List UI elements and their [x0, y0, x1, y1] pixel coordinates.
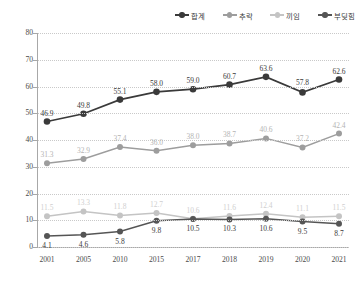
data-label: 10.3: [210, 224, 250, 233]
gridline: [38, 220, 349, 221]
line-marker-icon: [270, 11, 284, 19]
data-point: [117, 96, 124, 103]
line-marker-icon: [175, 11, 189, 19]
data-point: [299, 89, 306, 96]
line-marker-icon: [223, 11, 237, 19]
data-label: 11.5: [27, 203, 67, 212]
data-point: [336, 76, 343, 83]
plot-area: 8070605040302010020012005201020152017201…: [37, 33, 349, 248]
data-point: [336, 221, 342, 227]
y-axis-tick: [33, 60, 37, 61]
chart-legend: 합계추락끼임부딪힘: [175, 7, 355, 23]
y-axis-label: 10: [7, 215, 33, 224]
data-label: 37.2: [283, 134, 323, 143]
data-point: [154, 210, 160, 216]
data-point: [81, 208, 87, 214]
data-label: 10.6: [173, 206, 213, 215]
y-axis-label: 60: [7, 82, 33, 91]
y-axis-label: 80: [7, 28, 33, 37]
data-label: 4.1: [27, 241, 67, 250]
y-axis-label: 30: [7, 162, 33, 171]
y-axis-tick: [33, 33, 37, 34]
data-label: 11.8: [100, 202, 140, 211]
data-label: 11.6: [210, 203, 250, 212]
data-label: 10.5: [173, 224, 213, 233]
gridline: [38, 113, 349, 114]
data-label: 9.5: [283, 227, 323, 236]
y-axis-tick: [33, 194, 37, 195]
y-axis-label: 70: [7, 55, 33, 64]
y-axis-label: 40: [7, 135, 33, 144]
y-axis-tick: [33, 220, 37, 221]
data-label: 46.9: [27, 109, 67, 118]
x-axis-label: 2017: [173, 255, 213, 264]
gridline: [38, 194, 349, 195]
data-label: 58.0: [137, 79, 177, 88]
data-label: 38.0: [173, 132, 213, 141]
x-axis-label: 2001: [27, 255, 67, 264]
data-label: 57.8: [283, 78, 323, 87]
gridline: [38, 33, 349, 34]
y-axis-tick: [33, 140, 37, 141]
data-label: 5.8: [100, 237, 140, 246]
x-axis-label: 2018: [210, 255, 250, 264]
data-point: [81, 232, 87, 238]
legend-item-label: 부딪힘: [334, 10, 355, 21]
data-label: 60.7: [210, 72, 250, 81]
data-point: [336, 131, 342, 137]
data-point: [300, 144, 306, 150]
x-axis-label: 2010: [100, 255, 140, 264]
data-label: 11.5: [319, 203, 359, 212]
legend-item-2[interactable]: 끼임: [270, 10, 300, 21]
data-label: 9.8: [137, 226, 177, 235]
data-point: [44, 213, 50, 219]
data-label: 49.8: [64, 101, 104, 110]
data-point: [44, 160, 50, 166]
y-axis-tick: [33, 87, 37, 88]
data-label: 31.3: [27, 150, 67, 159]
data-label: 4.6: [64, 240, 104, 249]
data-point: [81, 156, 87, 162]
data-label: 13.3: [64, 198, 104, 207]
x-axis-label: 2015: [137, 255, 177, 264]
line-marker-icon: [318, 11, 332, 19]
data-point: [44, 233, 50, 239]
gridline: [38, 167, 349, 168]
y-axis-tick: [33, 167, 37, 168]
data-point: [190, 142, 196, 148]
data-point: [263, 74, 270, 81]
legend-item-label: 합계: [191, 10, 205, 21]
data-label: 55.1: [100, 87, 140, 96]
data-label: 62.6: [319, 67, 359, 76]
legend-item-0[interactable]: 합계: [175, 10, 205, 21]
data-point: [153, 89, 160, 96]
data-label: 42.4: [319, 121, 359, 130]
legend-item-1[interactable]: 추락: [223, 10, 253, 21]
x-axis-label: 2021: [319, 255, 359, 264]
data-label: 12.4: [246, 201, 286, 210]
data-point: [117, 212, 123, 218]
data-label: 32.9: [64, 146, 104, 155]
data-point: [227, 140, 233, 146]
data-label: 12.7: [137, 200, 177, 209]
data-label: 63.6: [246, 64, 286, 73]
data-point: [336, 213, 342, 219]
data-label: 8.7: [319, 229, 359, 238]
line-chart: 합계추락끼임부딪힘 807060504030201002001200520102…: [0, 0, 360, 289]
data-point: [117, 228, 123, 234]
legend-item-label: 추락: [239, 10, 253, 21]
gridline: [38, 60, 349, 61]
data-point: [44, 118, 51, 125]
data-label: 40.6: [246, 125, 286, 134]
x-axis-label: 2005: [64, 255, 104, 264]
data-label: 59.0: [173, 76, 213, 85]
y-axis-label: 20: [7, 189, 33, 198]
data-label: 11.1: [283, 204, 323, 213]
data-point: [117, 144, 123, 150]
x-axis-label: 2020: [283, 255, 323, 264]
legend-item-label: 끼임: [286, 10, 300, 21]
data-label: 36.0: [137, 138, 177, 147]
legend-item-3[interactable]: 부딪힘: [318, 10, 355, 21]
data-label: 10.6: [246, 224, 286, 233]
data-point: [154, 148, 160, 154]
